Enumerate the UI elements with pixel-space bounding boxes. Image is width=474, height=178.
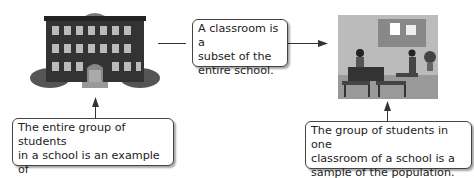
text-line: The entire group of students [18,121,168,149]
text-line: a population. [18,177,168,178]
text-line: A classroom is a [198,22,282,50]
text-line: entire school. [198,64,282,78]
arrowhead-up-icon [91,97,100,107]
school-building-image [30,12,160,94]
text-line: subset of the [198,50,282,64]
classroom-image [338,15,438,99]
arrowhead-right-icon [318,39,328,48]
text-line: classroom of a school is a [311,152,466,166]
sample-callout: The group of students in one classroom o… [305,121,472,169]
text-line: The group of students in one [311,124,466,152]
subset-callout: A classroom is a subset of the entire sc… [192,19,288,67]
text-line: in a school is an example of [18,149,168,177]
connector-right [288,43,321,44]
text-line: sample of the population. [311,166,466,178]
arrowhead-up-icon [383,101,392,111]
population-callout: The entire group of students in a school… [12,118,174,166]
connector-left [158,43,186,44]
